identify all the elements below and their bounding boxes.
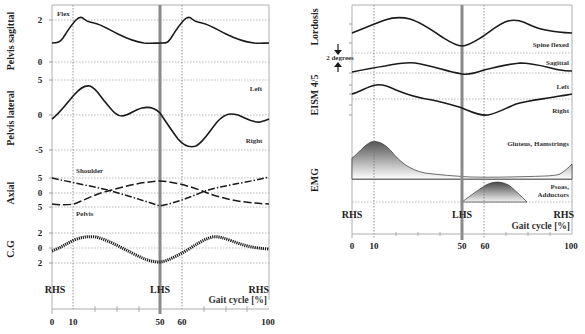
annotation-right: Right xyxy=(552,107,569,115)
x-axis-label: Gait cycle [%] xyxy=(511,221,570,231)
event-rhs-end: RHS xyxy=(248,284,269,295)
annotation-adductors: Adductors xyxy=(537,191,569,199)
x-axis-label: Gait cycle [%] xyxy=(208,295,267,305)
tick-cg-0: 0 xyxy=(38,243,43,253)
scale-bar-2-degrees: 2 degrees xyxy=(326,44,354,72)
tick-axial-5-top: 5 xyxy=(38,173,43,183)
tick-sagittal-0: 0 xyxy=(38,57,43,67)
scale-bar-label: 2 degrees xyxy=(326,54,354,62)
emg-psoas-adductors-area xyxy=(462,182,527,202)
right-panel: 2 degrees Lordosis EISM 4/5 EMG Spine fl… xyxy=(309,5,578,251)
ylabel-cg: C.G xyxy=(5,240,16,258)
tick-axial-5-bottom: 5 xyxy=(38,202,43,212)
x-tick-100: 100 xyxy=(564,241,578,251)
ylabel-eism: EISM 4/5 xyxy=(309,75,320,116)
annotation-left: Left xyxy=(250,85,263,93)
annotation-sagittal: Sagittal xyxy=(546,59,569,67)
x-tick-0: 0 xyxy=(50,317,55,327)
x-tick-50: 50 xyxy=(458,241,468,251)
arrow-up-icon xyxy=(334,62,342,67)
ylabel-pelvis-sagittal: Pelvis sagittal xyxy=(5,11,16,70)
annotation-shoulder: Shoulder xyxy=(76,167,103,175)
tick-sagittal-2: 2 xyxy=(38,15,43,25)
annotation-pelvis: Pelvis xyxy=(76,210,94,218)
x-tick-60: 60 xyxy=(481,241,491,251)
event-rhs-end: RHS xyxy=(553,209,574,220)
x-tick-50: 50 xyxy=(156,317,166,327)
ylabel-axial: Axial xyxy=(5,181,16,204)
gait-figure: Pelvis sagittal Pelvis lateral Axial C.G… xyxy=(0,0,585,334)
x-tick-100: 100 xyxy=(261,317,275,327)
tick-cg-2-top: 2 xyxy=(38,228,43,238)
ylabel-lordosis: Lordosis xyxy=(309,8,320,45)
tick-axial-0: 0 xyxy=(38,188,43,198)
ylabel-emg: EMG xyxy=(309,168,320,192)
x-tick-60: 60 xyxy=(178,317,188,327)
x-tick-0: 0 xyxy=(350,241,355,251)
tick-lateral-5: 5 xyxy=(38,75,43,85)
left-panel: Pelvis sagittal Pelvis lateral Axial C.G… xyxy=(5,5,275,327)
event-rhs-start: RHS xyxy=(45,284,66,295)
x-tick-10: 10 xyxy=(69,317,79,327)
annotation-spine-flexed: Spine flexed xyxy=(533,41,569,49)
annotation-left: Left xyxy=(557,83,570,91)
annotation-psoas: Psoas, xyxy=(551,183,570,191)
ylabel-pelvis-lateral: Pelvis lateral xyxy=(5,90,16,145)
annotation-gluteus-hamstrings: Gluteus, Hamstrings xyxy=(507,140,569,148)
x-tick-10: 10 xyxy=(370,241,380,251)
annotation-flex: Flex xyxy=(57,10,70,18)
event-lhs: LHS xyxy=(452,209,472,220)
event-lhs: LHS xyxy=(150,284,170,295)
tick-lateral-0: 0 xyxy=(38,110,43,120)
annotation-right: Right xyxy=(246,137,263,145)
event-rhs-start: RHS xyxy=(342,209,363,220)
tick-lateral-neg5: -5 xyxy=(35,145,43,155)
tick-cg-2-bottom: 2 xyxy=(38,258,43,268)
